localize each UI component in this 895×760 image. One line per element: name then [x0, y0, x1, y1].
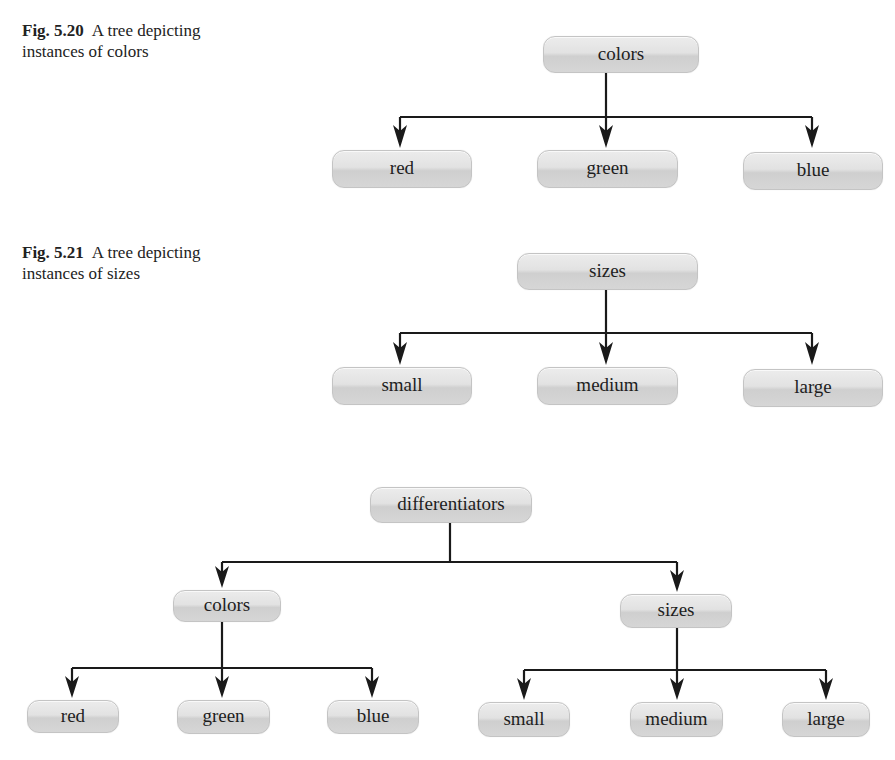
node-label: colors — [598, 43, 644, 65]
figure-caption-5-21: Fig. 5.21A tree depicting instances of s… — [22, 242, 200, 284]
node-label: large — [807, 708, 845, 730]
tree-node-differentiators-root: differentiators — [370, 487, 532, 523]
tree-node-blue: blue — [327, 700, 419, 734]
node-label: red — [61, 705, 85, 727]
node-label: large — [794, 376, 832, 398]
node-label: small — [503, 708, 544, 730]
figure-number: Fig. 5.21 — [22, 243, 84, 262]
tree-node-sizes-root: sizes — [517, 253, 698, 290]
caption-line-1: A tree depicting — [92, 243, 201, 262]
caption-line-2: instances of colors — [22, 41, 200, 62]
tree-node-colors-root: colors — [543, 36, 699, 73]
node-label: medium — [576, 374, 638, 396]
tree-node-colors: colors — [173, 590, 281, 622]
tree-node-medium: medium — [630, 702, 723, 737]
tree-node-large: large — [743, 369, 883, 407]
node-label: small — [381, 374, 422, 396]
node-label: sizes — [658, 599, 695, 621]
node-label: green — [586, 157, 628, 179]
tree-node-red: red — [332, 150, 472, 188]
tree-node-blue: blue — [743, 152, 883, 190]
tree-node-small: small — [478, 702, 570, 737]
tree-node-green: green — [177, 700, 270, 734]
tree-node-medium: medium — [537, 367, 678, 405]
node-label: medium — [645, 708, 707, 730]
tree-node-small: small — [332, 367, 472, 405]
node-label: blue — [357, 705, 390, 727]
tree-node-red: red — [27, 700, 119, 733]
figure-number: Fig. 5.20 — [22, 21, 84, 40]
node-label: sizes — [589, 260, 626, 282]
node-label: blue — [797, 159, 830, 181]
node-label: differentiators — [397, 493, 504, 515]
tree-node-large: large — [782, 702, 870, 737]
figure-caption-5-20: Fig. 5.20A tree depicting instances of c… — [22, 20, 200, 62]
node-label: colors — [204, 594, 250, 616]
caption-line-1: A tree depicting — [92, 21, 201, 40]
tree-node-sizes: sizes — [620, 594, 732, 628]
node-label: red — [390, 157, 414, 179]
tree-node-green: green — [537, 150, 678, 188]
caption-line-2: instances of sizes — [22, 263, 200, 284]
node-label: green — [202, 705, 244, 727]
